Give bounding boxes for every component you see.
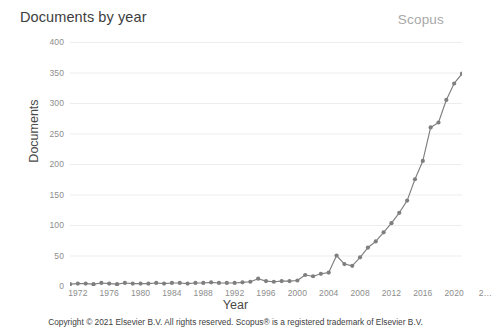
x-tick-label: 1980 [124, 288, 158, 298]
x-tick-label: 1988 [186, 288, 220, 298]
scopus-watermark: Scopus [398, 12, 444, 27]
copyright-notice: Copyright © 2021 Elsevier B.V. All right… [0, 317, 471, 327]
data-point[interactable] [436, 120, 440, 124]
data-point[interactable] [413, 177, 417, 181]
x-tick-label: 1984 [155, 288, 189, 298]
data-point[interactable] [186, 281, 190, 285]
data-point[interactable] [76, 281, 80, 285]
data-point[interactable] [217, 281, 221, 285]
data-point[interactable] [162, 281, 166, 285]
data-point[interactable] [107, 281, 111, 285]
documents-trend-line [70, 74, 462, 284]
data-point[interactable] [256, 277, 260, 281]
y-tick-label: 200 [34, 159, 64, 169]
data-point[interactable] [334, 253, 338, 257]
x-tick-label: 2004 [312, 288, 346, 298]
data-point[interactable] [350, 264, 354, 268]
data-point[interactable] [138, 281, 142, 285]
x-tick-label: 2000 [280, 288, 314, 298]
data-point[interactable] [421, 159, 425, 163]
y-tick-label: 350 [34, 68, 64, 78]
data-point[interactable] [287, 279, 291, 283]
data-point[interactable] [201, 281, 205, 285]
data-point[interactable] [84, 281, 88, 285]
data-point[interactable] [99, 281, 103, 285]
data-point[interactable] [131, 281, 135, 285]
data-point[interactable] [123, 281, 127, 285]
x-tick-label: 2020 [437, 288, 471, 298]
data-point[interactable] [240, 280, 244, 284]
data-point[interactable] [295, 278, 299, 282]
data-point[interactable] [170, 281, 174, 285]
data-point[interactable] [374, 239, 378, 243]
data-point[interactable] [452, 81, 456, 85]
data-point[interactable] [209, 280, 213, 284]
plot-area [70, 42, 462, 286]
data-point[interactable] [70, 282, 72, 286]
y-tick-label: 300 [34, 98, 64, 108]
data-point[interactable] [193, 281, 197, 285]
data-point[interactable] [405, 199, 409, 203]
data-point[interactable] [397, 211, 401, 215]
data-point[interactable] [272, 280, 276, 284]
x-tick-label: 2008 [343, 288, 377, 298]
data-point[interactable] [248, 280, 252, 284]
data-point[interactable] [366, 245, 370, 249]
data-point[interactable] [115, 282, 119, 286]
x-tick-label: 1992 [218, 288, 252, 298]
data-point[interactable] [382, 230, 386, 234]
data-point[interactable] [311, 274, 315, 278]
x-tick-label: 2016 [406, 288, 440, 298]
x-tick-label: 1996 [249, 288, 283, 298]
data-point[interactable] [444, 98, 448, 102]
data-point[interactable] [303, 273, 307, 277]
data-point[interactable] [178, 281, 182, 285]
data-point[interactable] [389, 221, 393, 225]
data-point[interactable] [146, 281, 150, 285]
y-tick-label: 400 [34, 37, 64, 47]
x-tick-label: 1972 [61, 288, 95, 298]
gridlines [70, 43, 462, 287]
data-point[interactable] [429, 125, 433, 129]
data-point[interactable] [319, 272, 323, 276]
data-point[interactable] [342, 262, 346, 266]
x-tick-label: 1976 [92, 288, 126, 298]
y-tick-label: 0 [34, 281, 64, 291]
y-tick-label: 150 [34, 190, 64, 200]
x-tick-label: 2012 [374, 288, 408, 298]
y-tick-label: 100 [34, 220, 64, 230]
data-point[interactable] [154, 281, 158, 285]
x-tick-label: 2… [469, 288, 496, 298]
x-axis-title: Year [0, 298, 471, 312]
data-point[interactable] [233, 281, 237, 285]
line-chart-svg [70, 42, 462, 286]
data-point[interactable] [358, 255, 362, 259]
data-point[interactable] [225, 281, 229, 285]
data-point[interactable] [264, 279, 268, 283]
data-point[interactable] [91, 282, 95, 286]
data-point[interactable] [327, 270, 331, 274]
chart-title: Documents by year [20, 9, 147, 25]
y-tick-label: 50 [34, 251, 64, 261]
data-point[interactable] [280, 279, 284, 283]
y-tick-label: 250 [34, 129, 64, 139]
